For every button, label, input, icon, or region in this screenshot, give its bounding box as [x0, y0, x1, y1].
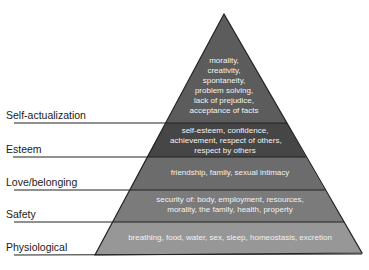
desc-esteem: self-esteem, confidence, achievement, re… — [170, 126, 280, 156]
label-self-actualization: Self-actualization — [6, 109, 86, 121]
label-love-belonging: Love/belonging — [6, 176, 77, 188]
label-safety: Safety — [6, 208, 36, 220]
desc-love-belonging: friendship, family, sexual intimacy — [160, 168, 300, 178]
divider-physiological — [14, 254, 362, 255]
label-esteem: Esteem — [6, 143, 42, 155]
desc-self-actualization: morality, creativity, spontaneity, probl… — [174, 56, 274, 116]
desc-physiological: breathing, food, water, sex, sleep, home… — [110, 233, 350, 243]
label-physiological: Physiological — [6, 241, 67, 253]
desc-safety: security of: body, employment, resources… — [140, 195, 320, 215]
